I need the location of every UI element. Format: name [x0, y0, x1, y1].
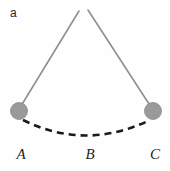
right-pendulum-string — [88, 10, 151, 107]
swing-trajectory-arc — [23, 120, 150, 136]
position-label-c: C — [145, 147, 165, 162]
pendulum-figure-panel: a A B C — [0, 0, 170, 171]
right-pendulum-bob — [145, 103, 162, 120]
position-label-b: B — [80, 147, 100, 162]
position-label-a: A — [11, 147, 31, 162]
left-pendulum-string — [21, 11, 79, 106]
left-pendulum-bob — [11, 103, 28, 120]
